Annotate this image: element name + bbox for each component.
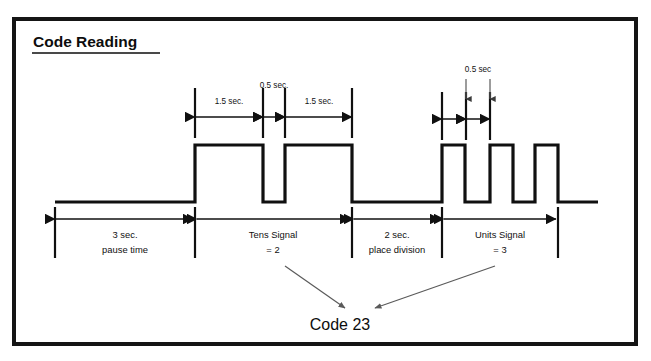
seg-label-tens-line1: Tens Signal bbox=[249, 229, 297, 240]
callout-arrow-from-tens bbox=[285, 266, 345, 308]
timing-diagram-canvas: Code Reading 1.5 sec. 0.5 sec. 1.5 sec. … bbox=[0, 0, 651, 361]
figure-frame bbox=[14, 19, 636, 344]
dim-label-tens-pulse1: 1.5 sec. bbox=[215, 97, 244, 106]
seg-label-tens-line2: = 2 bbox=[266, 244, 279, 255]
tens-dimension-group: 1.5 sec. 0.5 sec. 1.5 sec. bbox=[195, 81, 352, 138]
code-callout-group: Code 23 bbox=[285, 266, 495, 333]
seg-label-units-line2: = 3 bbox=[493, 244, 506, 255]
callout-arrow-from-units bbox=[375, 266, 495, 308]
seg-label-division-line2: place division bbox=[369, 244, 425, 255]
units-dimension-group: 0.5 sec bbox=[442, 65, 491, 140]
segment-dimension-group: 3 sec. pause time Tens Signal = 2 2 sec.… bbox=[55, 219, 556, 255]
dim-label-tens-gap: 0.5 sec. bbox=[260, 81, 289, 90]
seg-label-pause-line2: pause time bbox=[102, 244, 148, 255]
seg-label-division-line1: 2 sec. bbox=[384, 229, 409, 240]
code-result-label: Code 23 bbox=[310, 316, 371, 333]
page-title: Code Reading bbox=[33, 33, 137, 50]
seg-label-pause-line1: 3 sec. bbox=[112, 229, 137, 240]
dim-label-tens-pulse2: 1.5 sec. bbox=[305, 97, 334, 106]
dim-label-units-pulse: 0.5 sec bbox=[465, 65, 491, 74]
seg-label-units-line1: Units Signal bbox=[475, 229, 525, 240]
signal-waveform bbox=[55, 145, 598, 202]
code-reading-diagram: Code Reading 1.5 sec. 0.5 sec. 1.5 sec. … bbox=[0, 0, 651, 361]
